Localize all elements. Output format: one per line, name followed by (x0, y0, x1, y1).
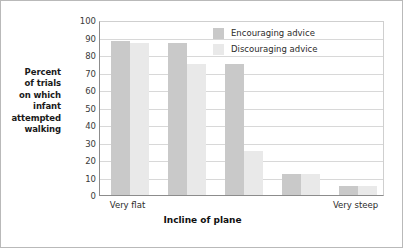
legend-item-label: Encouraging advice (231, 28, 315, 38)
bar (358, 186, 377, 195)
legend-item: Encouraging advice (213, 26, 317, 40)
bar (244, 151, 263, 195)
y-axis-title-line: walking (3, 124, 61, 135)
y-axis-tick-label: 70 (56, 69, 96, 79)
bar (168, 43, 187, 195)
bar (111, 41, 130, 195)
bar (130, 43, 149, 195)
bar-group (158, 21, 215, 195)
y-axis-title-line: on which (3, 90, 61, 101)
chart-figure: Percentof trialson whichinfantattemptedw… (0, 0, 403, 248)
y-axis-title-line: infant (3, 101, 61, 112)
y-axis-tick-label: 20 (56, 156, 96, 166)
x-axis-tick-label: Very flat (110, 200, 146, 210)
y-axis-tick-label: 30 (56, 139, 96, 149)
bar (282, 174, 301, 195)
bar (339, 186, 358, 195)
bar (301, 174, 320, 195)
y-axis-tick-label: 100 (56, 16, 96, 26)
chart-legend: Encouraging adviceDiscouraging advice (213, 26, 317, 58)
y-axis-title: Percentof trialson whichinfantattemptedw… (3, 67, 61, 135)
y-axis-tick-label: 10 (56, 174, 96, 184)
y-axis-tick-label: 80 (56, 51, 96, 61)
y-axis-tick-label: 60 (56, 86, 96, 96)
x-axis-title: Incline of plane (1, 215, 403, 225)
y-axis-tick-label: 40 (56, 121, 96, 131)
bar-group (329, 21, 386, 195)
y-axis-tick-label: 0 (56, 191, 96, 201)
bar (187, 64, 206, 195)
bar (225, 64, 244, 195)
y-axis-title-line: of trials (3, 78, 61, 89)
y-axis-title-line: attempted (3, 113, 61, 124)
legend-swatch-discouraging (213, 44, 224, 55)
bar-group (101, 21, 158, 195)
legend-item: Discouraging advice (213, 42, 317, 56)
legend-swatch-encouraging (213, 28, 224, 39)
y-axis-tick-label: 50 (56, 104, 96, 114)
legend-item-label: Discouraging advice (231, 44, 317, 54)
y-axis-title-line: Percent (3, 67, 61, 78)
y-axis-tick-label: 90 (56, 34, 96, 44)
x-axis-tick-label: Very steep (333, 200, 378, 210)
